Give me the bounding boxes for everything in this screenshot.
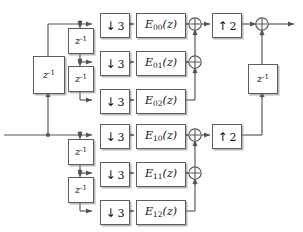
delay-exp-bottom-1: -1 (80, 146, 87, 154)
filter-base-E10: E (145, 129, 153, 142)
delay-block-bottom-1[interactable]: z-1 (68, 139, 94, 165)
upsampler-block-bottom[interactable]: ↑2 (212, 124, 242, 149)
filter-arg-E01: (z) (163, 56, 177, 69)
down-arrow-icon: ↓ (105, 206, 115, 220)
downsampler-factor-01: 3 (118, 58, 125, 71)
upsampler-block-top[interactable]: ↑2 (212, 13, 242, 38)
filter-block-E11[interactable]: E11(z) (136, 162, 186, 187)
filter-base-E02: E (145, 94, 153, 107)
filter-arg-E12: (z) (163, 205, 177, 218)
up-arrow-icon: ↑ (217, 19, 227, 33)
filter-base-E01: E (145, 56, 153, 69)
downsampler-block-12[interactable]: ↓3 (100, 200, 130, 225)
downsampler-block-10[interactable]: ↓3 (100, 124, 130, 149)
downsampler-block-11[interactable]: ↓3 (100, 162, 130, 187)
filter-block-E10[interactable]: E10(z) (136, 124, 186, 149)
delay-exp-output: -1 (262, 73, 269, 81)
filter-base-E11: E (145, 167, 153, 180)
upsampler-factor-top: 2 (230, 20, 237, 33)
filter-block-E01[interactable]: E01(z) (136, 51, 186, 76)
down-arrow-icon: ↓ (105, 95, 115, 109)
filter-block-E00[interactable]: E00(z) (136, 13, 186, 38)
downsampler-block-02[interactable]: ↓3 (100, 89, 130, 114)
down-arrow-icon: ↓ (105, 130, 115, 144)
filter-sub-E10: 10 (153, 134, 163, 143)
filter-block-E12[interactable]: E12(z) (136, 200, 186, 225)
filter-sub-E00: 00 (153, 23, 163, 32)
filter-base-E12: E (145, 205, 153, 218)
down-arrow-icon: ↓ (105, 168, 115, 182)
delay-block-output[interactable]: z-1 (248, 64, 278, 94)
filter-sub-E02: 02 (153, 99, 163, 108)
down-arrow-icon: ↓ (105, 19, 115, 33)
delay-block-bottom-2[interactable]: z-1 (68, 177, 94, 203)
up-arrow-icon: ↑ (217, 130, 227, 144)
downsampler-block-01[interactable]: ↓3 (100, 51, 130, 76)
delay-block-top-2[interactable]: z-1 (68, 66, 94, 92)
filter-base-E00: E (145, 18, 153, 31)
filter-bank-diagram: ↓3 ↓3 ↓3 ↓3 ↓3 ↓3 E00(z) E01(z) E02(z) E… (0, 0, 303, 232)
filter-sub-E11: 11 (153, 172, 163, 181)
downsampler-factor-11: 3 (118, 169, 125, 182)
filter-arg-E10: (z) (163, 129, 177, 142)
delay-block-top-1[interactable]: z-1 (68, 28, 94, 54)
upsampler-factor-bottom: 2 (230, 131, 237, 144)
delay-exp-top-2: -1 (80, 73, 87, 81)
down-arrow-icon: ↓ (105, 57, 115, 71)
filter-arg-E02: (z) (163, 94, 177, 107)
filter-sub-E01: 01 (153, 61, 163, 70)
downsampler-factor-12: 3 (118, 207, 125, 220)
filter-arg-E11: (z) (163, 167, 177, 180)
delay-exp-bottom-2: -1 (80, 184, 87, 192)
delay-exp-main: -1 (48, 69, 55, 77)
downsampler-factor-00: 3 (118, 20, 125, 33)
delay-exp-top-1: -1 (80, 35, 87, 43)
filter-arg-E00: (z) (163, 18, 177, 31)
downsampler-factor-02: 3 (118, 96, 125, 109)
filter-block-E02[interactable]: E02(z) (136, 89, 186, 114)
delay-block-main[interactable]: z-1 (33, 56, 65, 94)
filter-sub-E12: 12 (153, 210, 163, 219)
downsampler-factor-10: 3 (118, 131, 125, 144)
downsampler-block-00[interactable]: ↓3 (100, 13, 130, 38)
